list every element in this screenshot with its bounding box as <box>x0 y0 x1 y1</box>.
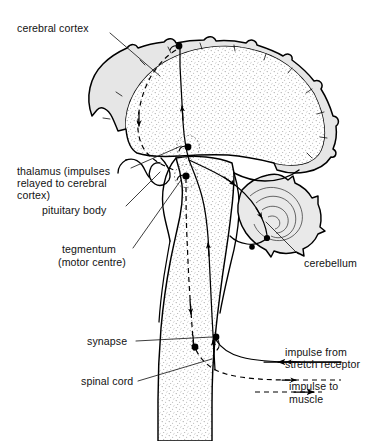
label-synapse: synapse <box>87 335 127 347</box>
label-thalamus-line3: cortex) <box>17 189 50 201</box>
legend-label-stretch-line2: stretch receptor <box>285 358 361 370</box>
label-thalamus-line2: relayed to cerebral <box>17 177 107 189</box>
cerebrum <box>89 37 339 173</box>
label-cerebral-cortex: cerebral cortex <box>17 22 89 34</box>
cerebellar-synapse-dot-2 <box>249 244 255 250</box>
label-tegmentum-line1: tegmentum <box>62 243 116 255</box>
legend-label-muscle-line1: impulse to <box>289 380 338 392</box>
spinal-motor-synapse-dot <box>192 344 199 351</box>
label-thalamus-line1: thalamus (impulses <box>17 165 110 177</box>
diagram-canvas: cerebral cortex thalamus (impulses relay… <box>0 0 379 441</box>
floor-of-third-ventricle <box>118 160 126 173</box>
label-spinal-cord: spinal cord <box>81 375 133 387</box>
legend-label-muscle-line2: muscle <box>289 393 323 405</box>
leader-pituitary <box>126 172 160 206</box>
brainstem-and-spinal-cord <box>118 156 239 441</box>
label-pituitary-body: pituitary body <box>42 204 107 216</box>
leader-tegmentum <box>133 180 181 248</box>
legend-label-stretch-line1: impulse from <box>285 346 347 358</box>
label-tegmentum-line2: (motor centre) <box>58 256 126 268</box>
label-cerebellum: cerebellum <box>304 257 357 269</box>
brain-pathway-diagram: cerebral cortex thalamus (impulses relay… <box>0 0 379 441</box>
